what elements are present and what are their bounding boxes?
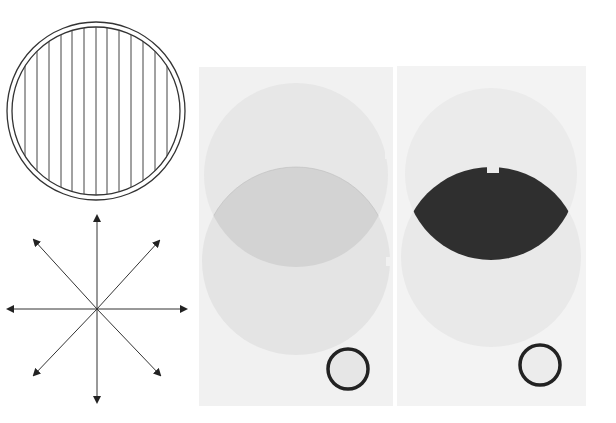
polarizer-disc-diagram (5, 18, 187, 204)
panel-crossed-polarizers (397, 66, 586, 406)
unpolarized-light-arrows (0, 210, 196, 410)
notch (487, 164, 499, 173)
panel-parallel-polarizers (199, 67, 393, 406)
small-ring (328, 349, 368, 389)
small-ring (520, 345, 560, 385)
